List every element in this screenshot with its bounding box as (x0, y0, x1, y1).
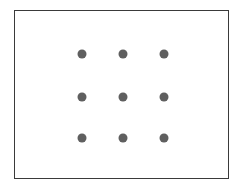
grid-dot (160, 93, 169, 102)
grid-dot (160, 50, 169, 59)
grid-dot (160, 134, 169, 143)
grid-dot (119, 50, 128, 59)
grid-dot (119, 134, 128, 143)
grid-dot (119, 93, 128, 102)
grid-dot (78, 50, 87, 59)
grid-dot (78, 93, 87, 102)
grid-dot (78, 134, 87, 143)
